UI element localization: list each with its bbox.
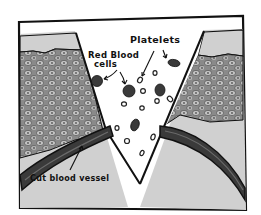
platelets-label: Platelets [130, 34, 180, 45]
cut-blood-vessel-label: Cut blood vessel [30, 174, 109, 183]
red-blood-cells-label: Red Bloodcells [88, 51, 139, 69]
red-blood-cell [92, 76, 103, 87]
red-blood-cells-label-line2: cells [88, 59, 117, 69]
red-blood-cell [155, 84, 165, 96]
red-blood-cell [123, 85, 135, 97]
right-skin-layer [198, 30, 243, 57]
